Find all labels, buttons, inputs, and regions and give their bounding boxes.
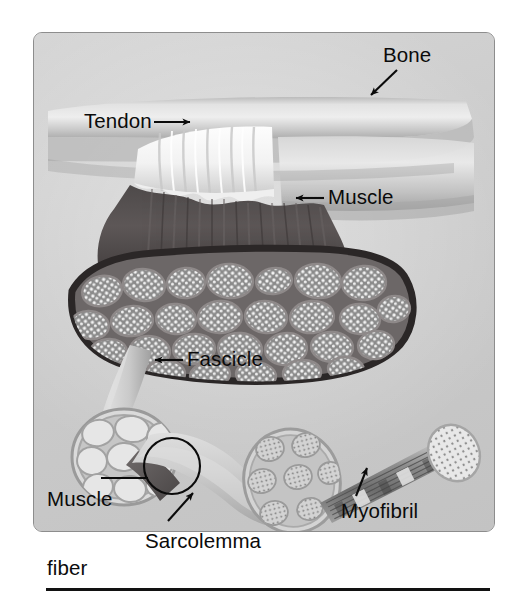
label-tendon: Tendon — [84, 110, 152, 133]
label-muscle-fiber-line1: Muscle — [47, 488, 113, 511]
bottom-divider-rule — [46, 588, 490, 591]
label-myofibril: Myofibril — [341, 500, 418, 523]
muscle-anatomy-figure: Bone Tendon Muscle Fascicle Muscle fiber… — [0, 0, 530, 606]
label-fascicle: Fascicle — [187, 348, 263, 371]
muscle-fiber-structure — [126, 419, 351, 532]
label-muscle-fiber: Muscle fiber — [47, 442, 113, 606]
label-muscle: Muscle — [328, 186, 394, 209]
label-bone: Bone — [383, 44, 431, 67]
label-muscle-fiber-line2: fiber — [47, 557, 113, 580]
label-sarcolemma: Sarcolemma — [145, 530, 261, 553]
